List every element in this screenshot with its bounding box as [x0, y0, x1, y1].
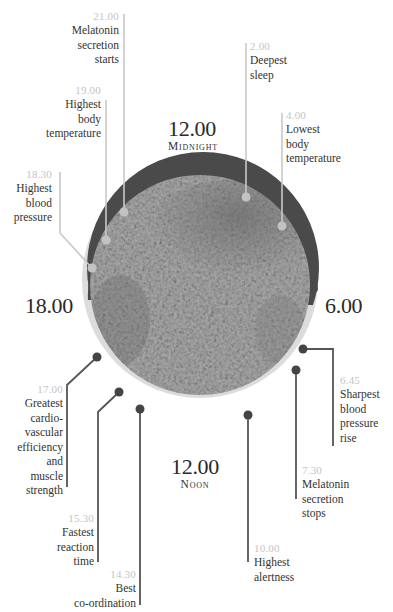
event-label-line: body [286, 138, 309, 150]
event-time: 2.00 [250, 40, 330, 53]
event-label-line: pressure [340, 417, 378, 429]
event-label-line: Highest [16, 182, 52, 194]
event-label-line: Deepest [250, 54, 287, 66]
event-label-line: muscle [30, 470, 63, 482]
event-time: 15.30 [14, 512, 94, 525]
event-label-line: reaction [57, 541, 94, 553]
event-label-line: cardio- [30, 412, 63, 424]
event-label-line: rise [340, 432, 357, 444]
event-label-line: Highest [65, 98, 101, 110]
event-label-line: Sharpest [340, 388, 380, 400]
event-label-line: starts [95, 53, 119, 65]
event-time: 4.00 [286, 109, 386, 122]
hour-evening: 18.00 [25, 294, 73, 318]
hour-morning: 6.00 [325, 294, 362, 318]
event-time: 10.00 [254, 542, 334, 555]
event-label-line: efficiency [17, 441, 63, 453]
event-highest-alertness: 10.00 Highest alertness [254, 542, 334, 584]
event-label-line: sleep [250, 69, 274, 81]
event-label-line: Best [116, 582, 136, 594]
event-deepest-sleep: 2.00 Deepest sleep [250, 40, 330, 82]
event-label-line: time [74, 555, 94, 567]
event-lowest-body-temp: 4.00 Lowest body temperature [286, 109, 386, 166]
event-time: 19.00 [0, 84, 101, 97]
event-label-line: alertness [254, 571, 294, 583]
event-label-line: strength [26, 484, 63, 496]
event-label-line: body [78, 113, 101, 125]
event-sharpest-bp-rise: 6.45 Sharpest blood pressure rise [340, 374, 393, 445]
event-label-line: secretion [77, 39, 119, 51]
event-label-line: Melatonin [72, 24, 119, 36]
event-label-line: pressure [14, 211, 52, 223]
event-label-line: stops [302, 507, 326, 519]
event-time: 21.00 [9, 10, 119, 23]
event-time: 18.30 [0, 168, 52, 181]
event-highest-body-temp: 19.00 Highest body temperature [0, 84, 101, 141]
event-time: 14.30 [36, 568, 136, 581]
event-label-line: Lowest [286, 123, 320, 135]
event-label-line: temperature [46, 127, 101, 139]
hour-noon-time: 12.00 [171, 454, 219, 479]
event-label-line: and [46, 455, 63, 467]
event-time: 6.45 [340, 374, 393, 387]
event-label-line: temperature [286, 152, 341, 164]
event-highest-blood-pressure: 18.30 Highest blood pressure [0, 168, 52, 225]
event-time: 17.00 [0, 383, 63, 396]
event-label-line: Melatonin [302, 478, 349, 490]
event-label-line: secretion [302, 493, 344, 505]
event-cardio-efficiency: 17.00 Greatest cardio- vascular efficien… [0, 383, 63, 498]
event-label-line: Greatest [25, 397, 63, 409]
event-label-line: Highest [254, 556, 290, 568]
event-label-line: blood [26, 197, 52, 209]
event-melatonin-stops: 7.30 Melatonin secretion stops [302, 464, 382, 521]
hour-noon: 12.00 Noon [171, 455, 219, 491]
event-best-coordination: 14.30 Best co-ordination [36, 568, 136, 610]
hour-midnight: 12.00 Midnight [168, 117, 218, 153]
event-fastest-reaction: 15.30 Fastest reaction time [14, 512, 94, 569]
hour-midnight-caption: Midnight [168, 140, 218, 153]
event-label-line: blood [340, 403, 366, 415]
hour-noon-caption: Noon [171, 478, 219, 491]
hour-midnight-time: 12.00 [168, 116, 216, 141]
event-label-line: Fastest [62, 526, 94, 538]
event-label-line: co-ordination [74, 597, 136, 609]
event-label-line: vascular [25, 426, 63, 438]
event-time: 7.30 [302, 464, 382, 477]
event-melatonin-starts: 21.00 Melatonin secretion starts [9, 10, 119, 67]
